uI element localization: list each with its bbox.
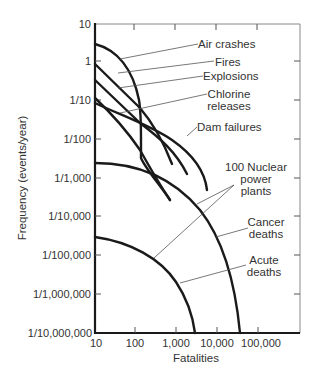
y-tick-label: 1/1,000 [54,172,91,184]
label-chlorine-line1: Chlorine [208,88,251,100]
annotations: Air crashes Fires Explosions Chlorine re… [197,38,287,278]
curve-nuclear-cancer-deaths [95,163,240,333]
y-tick-label: 1/1,000,000 [33,288,91,300]
label-acute-line2: deaths [247,266,282,278]
y-tick-label: 1/100,000 [42,249,91,261]
label-explosions: Explosions [203,70,259,82]
label-cancer-line2: deaths [249,228,284,240]
x-tick-label: 1,000 [162,337,190,349]
y-tick-label: 1 [85,55,91,67]
y-tick-label: 1/100 [63,133,91,145]
label-air-crashes: Air crashes [198,38,256,50]
y-tick-labels: 10 1 1/10 1/100 1/1,000 1/10,000 1/100,0… [28,18,92,339]
y-tick-label: 1/10,000 [48,210,91,222]
x-tick-label: 100 [126,337,144,349]
x-tick-label: 10,000 [200,337,234,349]
label-chlorine-line2: releases [207,100,251,112]
x-tick-label: 10 [90,337,102,349]
y-tick-label: 10 [79,18,91,30]
label-fires: Fires [215,56,241,68]
y-tick-label: 1/10 [70,94,91,106]
label-nuclear-line2: power [240,173,271,185]
chart-figure: 10 1 1/10 1/100 1/1,000 1/10,000 1/100,0… [0,0,315,381]
x-tick-label: 100,000 [241,337,281,349]
label-dam-failures: Dam failures [197,121,262,133]
x-tick-labels: 10 100 1,000 10,000 100,000 [90,337,281,349]
y-axis-title: Frequency (events/year) [16,116,28,241]
label-nuclear-line1: 100 Nuclear [225,161,287,173]
label-nuclear-line3: plants [241,185,272,197]
curve-nuclear-acute-deaths [95,237,195,333]
label-cancer-line1: Cancer [247,216,284,228]
x-axis-title: Fatalities [173,352,219,364]
y-tick-label: 1/10,000,000 [28,327,92,339]
label-acute-line1: Acute [249,254,278,266]
